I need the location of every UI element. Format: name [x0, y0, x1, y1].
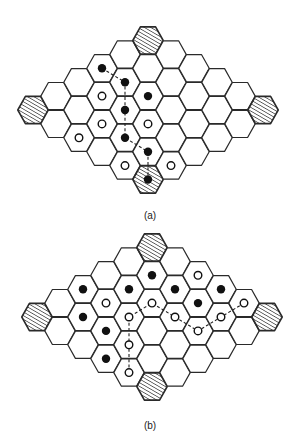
hex-cells	[22, 234, 282, 400]
black-stone-icon	[79, 313, 87, 321]
black-stone-icon	[79, 285, 87, 293]
hatched-edge-cell	[248, 96, 278, 123]
white-stone-icon	[217, 313, 225, 321]
black-stone-icon	[121, 78, 129, 86]
white-stone-icon	[98, 92, 106, 100]
black-stone-icon	[148, 271, 156, 279]
caption-b: (b)	[0, 420, 300, 431]
black-stone-icon	[125, 285, 133, 293]
white-stone-icon	[240, 299, 248, 307]
white-stone-icon	[144, 120, 152, 128]
black-stone-icon	[144, 148, 152, 156]
black-stone-icon	[194, 299, 202, 307]
white-stone-icon	[148, 299, 156, 307]
white-stone-icon	[194, 327, 202, 335]
white-stone-icon	[98, 120, 106, 128]
black-stone-icon	[102, 355, 110, 363]
white-stone-icon	[171, 313, 179, 321]
hex-board-a-graphic	[0, 0, 300, 225]
hex-board-diagram-b: (b)	[0, 225, 300, 438]
hex-board-diagram-a: (a)	[0, 0, 300, 225]
black-stone-icon	[144, 92, 152, 100]
black-stone-icon	[102, 327, 110, 335]
black-stone-icon	[121, 134, 129, 142]
caption-a: (a)	[0, 210, 300, 221]
black-stone-icon	[144, 175, 152, 183]
black-stone-icon	[171, 285, 179, 293]
white-stone-icon	[75, 134, 83, 142]
white-stone-icon	[125, 313, 133, 321]
white-stone-icon	[121, 162, 129, 170]
white-stone-icon	[167, 162, 175, 170]
hex-board-b-graphic	[0, 225, 300, 438]
black-stone-icon	[121, 106, 129, 114]
white-stone-icon	[125, 341, 133, 349]
white-stone-icon	[102, 299, 110, 307]
hatched-edge-cell	[252, 303, 282, 330]
white-stone-icon	[125, 369, 133, 377]
black-stone-icon	[217, 285, 225, 293]
black-stone-icon	[98, 64, 106, 72]
white-stone-icon	[194, 272, 202, 280]
